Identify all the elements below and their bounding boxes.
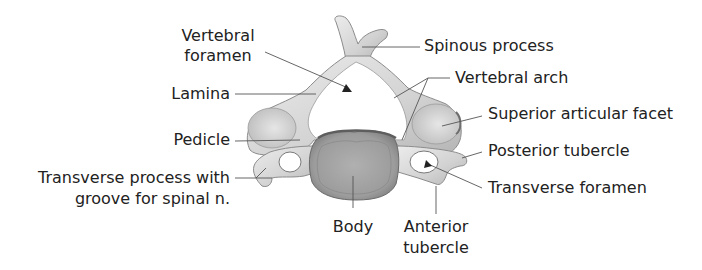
label-anterior-tubercle-line2: tubercle [396, 238, 476, 257]
right-superior-articular-facet [412, 104, 460, 144]
label-spinous-process: Spinous process [424, 36, 554, 55]
label-lamina: Lamina [120, 84, 230, 103]
label-vertebral-arch: Vertebral arch [455, 68, 568, 87]
vertebral-body [309, 131, 398, 201]
label-body: Body [323, 217, 383, 236]
label-superior-articular-facet: Superior articular facet [488, 104, 673, 123]
label-vertebral-foramen-line2: foramen [178, 46, 258, 65]
label-anterior-tubercle-line1: Anterior [396, 217, 476, 236]
right-transverse-foramen [410, 151, 438, 173]
spinous-process [335, 16, 388, 60]
label-vertebral-foramen-line1: Vertebral [178, 26, 258, 45]
label-pedicle: Pedicle [120, 130, 230, 149]
label-transverse-foramen: Transverse foramen [488, 178, 647, 197]
label-transverse-process-line2: groove for spinal n. [0, 189, 230, 208]
left-transverse-foramen [279, 152, 301, 172]
label-posterior-tubercle: Posterior tubercle [488, 141, 630, 160]
vertebra-diagram: Vertebral foramen Lamina Pedicle Transve… [0, 0, 702, 270]
left-superior-articular-facet [248, 108, 296, 148]
label-transverse-process-line1: Transverse process with [0, 168, 230, 187]
